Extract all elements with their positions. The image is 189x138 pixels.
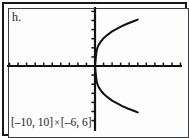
caption-y-interval-text: [–6, 6] — [61, 116, 92, 128]
caption-times-symbol: × — [53, 117, 61, 128]
calculator-graph — [5, 5, 184, 133]
figure-panel: h. [–10, 10]×[–6, 6] — [0, 0, 189, 138]
caption-x-interval-text: [–10, 10] — [11, 116, 53, 128]
graph-plot-area — [5, 5, 184, 133]
window-caption: [–10, 10]×[–6, 6] — [11, 116, 91, 129]
